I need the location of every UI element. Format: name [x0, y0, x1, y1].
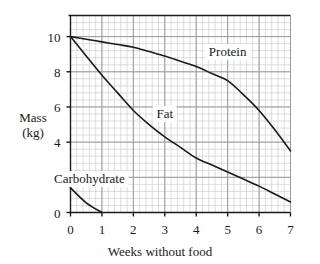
chart-figure: 0 2 4 6 8 10 0 1 2 3 4 5 6 7 Mass (kg) W…: [0, 0, 320, 264]
y-tick-label: 8: [39, 65, 61, 78]
curve-protein: [71, 37, 291, 151]
axis-ticks: [67, 37, 291, 217]
y-tick-label: 10: [39, 30, 61, 43]
series-label-carbohydrate: Carbohydrate: [50, 171, 129, 187]
y-axis-title-line1: Mass: [19, 109, 46, 124]
series-label-fat: Fat: [152, 106, 177, 122]
x-tick-label: 6: [251, 222, 267, 235]
x-tick-label: 2: [125, 222, 141, 235]
x-tick-label: 7: [283, 222, 299, 235]
x-tick-label: 3: [157, 222, 173, 235]
y-axis-title-line2: (kg): [22, 125, 44, 140]
x-tick-label: 4: [188, 222, 204, 235]
x-tick-label: 5: [220, 222, 236, 235]
x-tick-label: 0: [63, 222, 79, 235]
y-axis-title: Mass (kg): [6, 109, 60, 140]
x-axis-title: Weeks without food: [0, 244, 320, 257]
y-tick-label: 0: [39, 206, 61, 219]
series-label-protein: Protein: [205, 44, 251, 60]
x-tick-label: 1: [94, 222, 110, 235]
